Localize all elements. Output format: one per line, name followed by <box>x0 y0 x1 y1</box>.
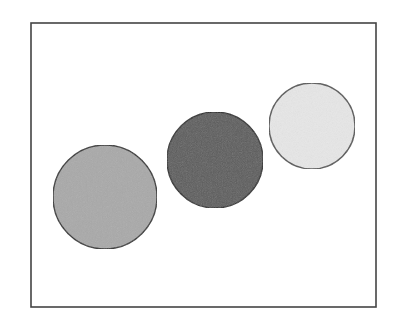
circles-group <box>53 83 355 249</box>
right-circle <box>269 83 355 169</box>
left-circle <box>53 145 157 249</box>
figure-svg <box>0 0 400 321</box>
figure-canvas <box>0 0 400 321</box>
middle-circle <box>167 112 263 208</box>
